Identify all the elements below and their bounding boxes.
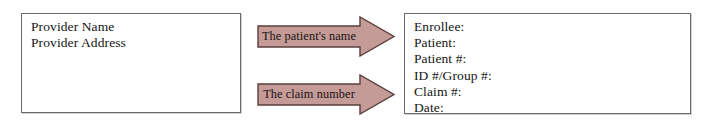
provider-box: Provider Name Provider Address [21, 13, 241, 113]
arrow-claim-number: The claim number [257, 74, 395, 115]
right-arrow-icon [257, 74, 395, 115]
claim-fields-lines: Enrollee: Patient: Patient #: ID #/Group… [414, 19, 686, 116]
field-date: Date: [414, 100, 686, 116]
right-arrow-icon [257, 16, 395, 57]
claim-fields-box: Enrollee: Patient: Patient #: ID #/Group… [404, 13, 691, 114]
field-id-group-number: ID #/Group #: [414, 68, 686, 84]
provider-box-lines: Provider Name Provider Address [31, 19, 236, 51]
field-patient: Patient: [414, 35, 686, 51]
provider-name-line: Provider Name [31, 19, 236, 35]
arrow-patient-name: The patient's name [257, 16, 395, 57]
diagram-canvas: Provider Name Provider Address The patie… [0, 0, 708, 140]
field-patient-number: Patient #: [414, 51, 686, 67]
field-claim-number: Claim #: [414, 84, 686, 100]
provider-address-line: Provider Address [31, 35, 236, 51]
field-enrollee: Enrollee: [414, 19, 686, 35]
